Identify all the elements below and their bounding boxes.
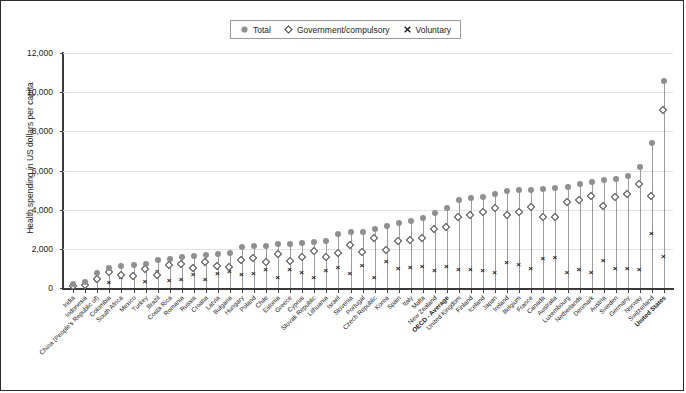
stem-line [423,218,424,288]
x-tick-mark [604,289,605,293]
data-point-voluntary: × [577,266,582,274]
data-point-government [587,192,595,200]
data-point-total [94,270,100,276]
x-tick-mark [664,289,665,293]
x-tick-mark [580,289,581,293]
data-point-total [191,253,197,259]
data-point-voluntary: × [299,269,304,277]
data-point-voluntary: × [287,266,292,274]
gridline [63,210,673,211]
x-tick-mark [375,289,376,293]
chart-legend: Total Government/compulsory Voluntary [230,20,461,39]
data-point-voluntary: × [167,277,172,285]
stem-line [363,232,364,288]
data-point-government [466,211,474,219]
stem-line [555,188,556,288]
stem-line [254,246,255,288]
data-point-government [418,234,426,242]
data-point-voluntary: × [661,253,666,261]
data-point-government [623,190,631,198]
stem-line [435,213,436,288]
data-point-total [456,197,462,203]
x-tick-mark [278,289,279,293]
data-point-total [323,238,329,244]
x-tick-mark [483,289,484,293]
data-point-voluntary: × [360,262,365,270]
x-tick-mark [254,289,255,293]
data-point-voluntary: × [179,276,184,284]
data-point-voluntary: × [516,261,521,269]
data-point-government [310,246,318,254]
data-point-voluntary: × [323,267,328,275]
data-point-voluntary: × [589,269,594,277]
data-point-total [637,164,643,170]
x-tick-mark [218,289,219,293]
gridline [63,53,673,54]
x-tick-mark [543,289,544,293]
data-point-government [442,223,450,231]
x-tick-mark [363,289,364,293]
data-point-voluntary: × [275,274,280,282]
data-point-voluntary: × [420,263,425,271]
plot-area: ××××××××××××××××××××××××××××××××××××××××… [63,53,673,288]
data-point-government [201,257,209,265]
data-point-total [143,261,149,267]
data-point-total [552,185,558,191]
data-point-government [563,197,571,205]
x-tick-mark [507,289,508,293]
y-tick-label: 0 [48,283,53,293]
gridline [63,131,673,132]
data-point-voluntary: × [408,264,413,272]
data-point-government [382,246,390,254]
data-point-voluntary: × [540,255,545,263]
stem-line [447,208,448,288]
data-point-total [468,195,474,201]
data-point-government [165,260,173,268]
data-point-voluntary: × [396,265,401,273]
y-tick-label: 2,000 [32,244,53,254]
x-tick-mark [568,289,569,293]
stem-line [543,189,544,288]
legend-item-total: Total [240,25,271,35]
data-point-voluntary: × [456,266,461,274]
x-tick-mark [194,289,195,293]
data-point-total [215,251,221,257]
x-mark-icon [403,25,412,34]
y-tick-mark [60,288,63,289]
data-point-total [444,205,450,211]
data-point-government [249,254,257,262]
x-axis-line [62,288,674,290]
data-point-total [516,187,522,193]
x-tick-mark [170,289,171,293]
y-tick-label: 4,000 [32,205,53,215]
x-tick-mark [459,289,460,293]
data-point-total [565,184,571,190]
x-tick-mark [302,289,303,293]
data-point-total [504,188,510,194]
data-point-voluntary: × [565,269,570,277]
legend-item-voluntary: Voluntary [403,25,451,35]
x-tick-mark [471,289,472,293]
data-point-total [82,279,88,285]
data-point-government [153,271,161,279]
data-point-total [167,256,173,262]
stem-line [411,221,412,288]
x-tick-mark [314,289,315,293]
open-diamond-icon [284,25,293,34]
data-point-voluntary: × [552,254,557,262]
x-tick-mark [652,289,653,293]
stem-line [652,143,653,288]
data-point-government [490,203,498,211]
stem-line [507,191,508,288]
data-point-voluntary: × [348,270,353,278]
data-point-voluntary: × [372,274,377,282]
stem-line [399,223,400,288]
y-axis-title: Health spending in US dollars per capita [25,43,35,273]
data-point-voluntary: × [311,274,316,282]
legend-label-total: Total [253,25,271,35]
data-point-total [613,176,619,182]
data-point-total [661,78,667,84]
x-tick-mark [242,289,243,293]
x-tick-mark [411,289,412,293]
data-point-voluntary: × [251,270,256,278]
